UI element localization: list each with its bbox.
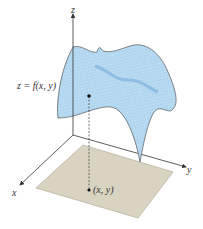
- surface-point: [87, 94, 91, 98]
- domain-point-label: (x, y): [93, 185, 114, 195]
- surface-label: z = f(x, y): [17, 81, 56, 91]
- domain-region: [36, 145, 173, 218]
- y-axis-label: y: [187, 165, 191, 175]
- x-axis-label: x: [12, 188, 16, 198]
- z-axis-label: z: [71, 5, 75, 15]
- domain-point: [87, 188, 90, 191]
- surface: [58, 45, 177, 162]
- function-graph-diagram: z x y z = f(x, y) (x, y): [0, 0, 203, 229]
